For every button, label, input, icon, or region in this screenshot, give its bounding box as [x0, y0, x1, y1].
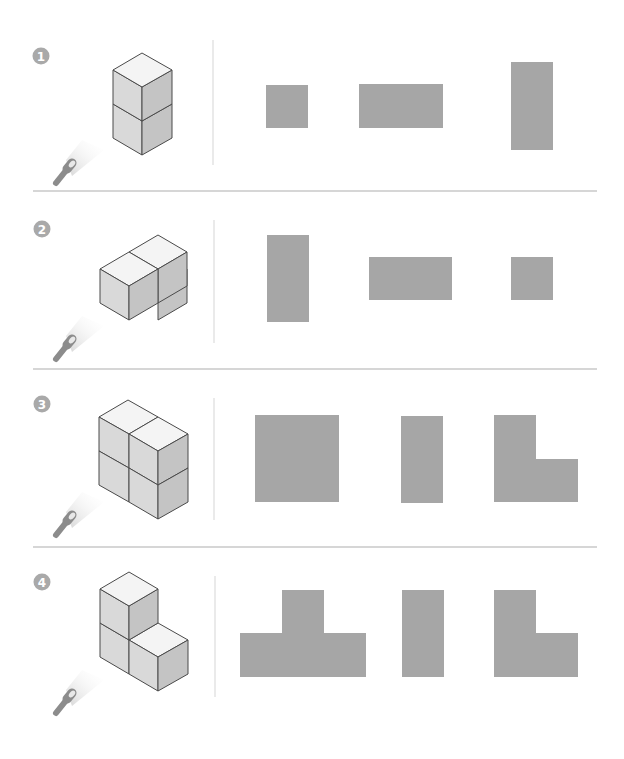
cube-structure: [100, 572, 188, 691]
section-2: 2: [34, 221, 554, 360]
section-1: 1: [33, 48, 554, 184]
number-badge: 2: [34, 221, 51, 238]
option-l-shape[interactable]: [494, 590, 578, 677]
view-options: [255, 415, 578, 503]
option-t-shape[interactable]: [240, 590, 366, 677]
number-badge: 1: [33, 48, 50, 65]
figure: 1: [0, 0, 624, 759]
option-vertical-rectangle[interactable]: [402, 590, 444, 677]
option-square[interactable]: [511, 257, 553, 300]
cube-structure: [100, 235, 187, 320]
badge-number: 4: [38, 576, 46, 590]
option-large-square[interactable]: [255, 415, 339, 502]
option-horizontal-rectangle[interactable]: [369, 257, 452, 300]
flashlight-icon: [56, 670, 104, 713]
number-badge: 4: [34, 574, 51, 591]
option-l-shape[interactable]: [494, 415, 578, 502]
view-options: [240, 590, 578, 677]
flashlight-icon: [56, 140, 104, 183]
view-options: [266, 62, 553, 150]
badge-number: 2: [38, 223, 46, 237]
option-vertical-rectangle[interactable]: [267, 235, 309, 322]
section-4: 4: [34, 572, 579, 713]
cube-structure: [113, 53, 172, 155]
section-3: 3: [34, 396, 579, 536]
badge-number: 1: [37, 50, 45, 64]
number-badge: 3: [34, 396, 51, 413]
cube-structure: [99, 400, 188, 519]
flashlight-icon: [56, 492, 104, 535]
option-vertical-rectangle[interactable]: [511, 62, 553, 150]
view-options: [267, 235, 553, 322]
badge-number: 3: [38, 398, 46, 412]
figure-canvas: 1: [0, 0, 624, 759]
option-vertical-rectangle[interactable]: [401, 416, 443, 503]
option-square[interactable]: [266, 85, 308, 128]
flashlight-icon: [56, 316, 104, 359]
option-horizontal-rectangle[interactable]: [359, 84, 443, 128]
